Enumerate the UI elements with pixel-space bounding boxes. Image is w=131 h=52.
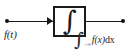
integral-upper-limit: t xyxy=(84,33,91,38)
integral-limits: t −∞ xyxy=(84,31,91,48)
output-signal-formula: ∫ t −∞ f(x) dx xyxy=(74,30,115,49)
integral-lower-limit: −∞ xyxy=(84,42,91,47)
output-terminal-dot-icon xyxy=(121,19,125,23)
output-wire xyxy=(86,21,123,22)
integral-sign-icon: ∫ xyxy=(74,30,84,49)
input-signal-label: f(t) xyxy=(4,28,17,40)
differential-term: dx xyxy=(105,34,115,45)
integrator-block-diagram: f(t) ∫ ∫ t −∞ f(x) dx xyxy=(0,0,131,52)
integrand-expression: f(x) xyxy=(92,34,105,45)
